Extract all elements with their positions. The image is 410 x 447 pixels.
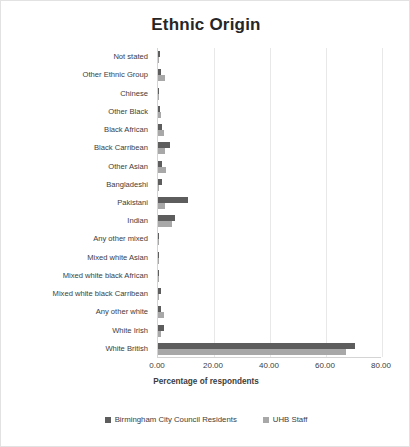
gridline [326, 48, 327, 357]
x-tick-label: 60.00 [315, 361, 335, 370]
category-label: Any other mixed [93, 235, 148, 243]
gridline [382, 48, 383, 357]
chart-title: Ethnic Origin [1, 15, 410, 35]
bar-1 [158, 258, 159, 264]
category-label: Other Asian [108, 163, 148, 171]
bar-1 [158, 112, 161, 118]
category-label: Other Ethnic Group [83, 71, 148, 79]
legend-item[interactable]: Birmingham City Council Residents [105, 415, 237, 424]
category-label: Mixed white black Carribean [53, 290, 148, 298]
chart-legend: Birmingham City Council ResidentsUHB Sta… [1, 415, 410, 424]
category-label: Other Black [108, 108, 148, 116]
bar-1 [158, 349, 346, 355]
bar-1 [158, 276, 159, 282]
category-label: Black African [104, 126, 148, 134]
bar-1 [158, 167, 166, 173]
legend-swatch-icon [263, 417, 269, 423]
chart-container: Ethnic Origin Not statedOther Ethnic Gro… [0, 0, 410, 447]
x-tick-label: 0.00 [149, 361, 165, 370]
category-label: Chinese [120, 90, 148, 98]
category-label: Indian [127, 217, 148, 225]
bar-1 [158, 57, 159, 63]
category-label: Not stated [113, 53, 148, 61]
plot-wrapper: Not statedOther Ethnic GroupChineseOther… [1, 48, 410, 358]
bar-1 [158, 185, 159, 191]
legend-swatch-icon [105, 417, 111, 423]
bar-1 [158, 94, 159, 100]
category-label: White British [105, 345, 148, 353]
legend-item[interactable]: UHB Staff [263, 415, 308, 424]
category-label: Bangladeshi [106, 181, 148, 189]
bar-1 [158, 75, 165, 81]
gridline [270, 48, 271, 357]
bar-1 [158, 239, 159, 245]
gridline [214, 48, 215, 357]
bar-1 [158, 294, 159, 300]
x-tick-label: 20.00 [203, 361, 223, 370]
category-label: White Irish [112, 327, 148, 335]
bar-1 [158, 331, 161, 337]
x-tick-label: 40.00 [259, 361, 279, 370]
bar-1 [158, 148, 165, 154]
bar-1 [158, 221, 172, 227]
bar-1 [158, 203, 165, 209]
x-axis-title: Percentage of respondents [1, 377, 410, 386]
legend-label: Birmingham City Council Residents [115, 415, 237, 424]
category-label: Mixed white black African [63, 272, 148, 280]
category-label: Black Carribean [94, 144, 148, 152]
plot-area [157, 48, 381, 358]
x-tick-label: 80.00 [371, 361, 391, 370]
category-label: Mixed white Asian [87, 254, 148, 262]
category-axis-labels: Not statedOther Ethnic GroupChineseOther… [1, 48, 153, 358]
category-label: Any other white [96, 308, 148, 316]
legend-label: UHB Staff [273, 415, 308, 424]
x-axis-tick-labels: 0.0020.0040.0060.0080.00 [157, 361, 381, 375]
bar-1 [158, 130, 164, 136]
category-label: Pakistani [117, 199, 148, 207]
bar-1 [158, 312, 164, 318]
